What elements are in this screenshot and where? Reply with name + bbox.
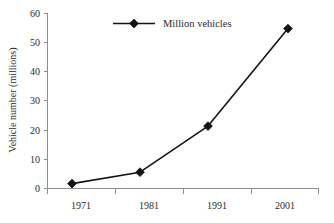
chart-screenshot: 0 10 20 30 40 50 60 1971 1981 1991 2001 … bbox=[0, 0, 334, 223]
x-tick-label-1971: 1971 bbox=[71, 200, 91, 211]
y-tick-label-0: 0 bbox=[35, 183, 40, 194]
y-tick-label-40: 40 bbox=[30, 66, 40, 77]
y-tick-label-60: 60 bbox=[30, 8, 40, 19]
legend-label-million-vehicles: Million vehicles bbox=[163, 18, 232, 29]
y-tick-label-20: 20 bbox=[30, 125, 40, 136]
x-tick-label-2001: 2001 bbox=[275, 200, 295, 211]
y-tick-label-10: 10 bbox=[30, 154, 40, 165]
x-tick-label-1991: 1991 bbox=[207, 200, 227, 211]
line-chart: 0 10 20 30 40 50 60 1971 1981 1991 2001 … bbox=[0, 0, 334, 223]
x-tick-label-1981: 1981 bbox=[139, 200, 159, 211]
y-axis-title: Vehicle number (millions) bbox=[7, 48, 19, 153]
y-tick-label-50: 50 bbox=[30, 37, 40, 48]
y-tick-label-30: 30 bbox=[30, 95, 40, 106]
